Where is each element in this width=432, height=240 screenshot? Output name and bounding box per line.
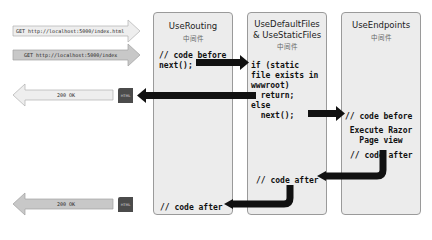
request-label-index-html: GET http://localhost:5000/index.html — [16, 28, 124, 34]
html-document-icon: HTML — [118, 197, 133, 212]
request-label-index: GET http://localhost:5000/index — [24, 52, 117, 58]
response-label-200: 200 OK — [57, 201, 75, 207]
html-document-icon: HTML — [118, 88, 133, 103]
response-label-200: 200 OK — [57, 92, 75, 98]
